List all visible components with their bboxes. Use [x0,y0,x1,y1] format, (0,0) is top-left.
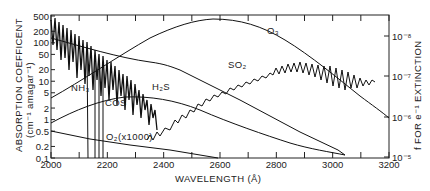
y-tick-label: 0.1 [36,153,49,164]
x-tick-label: 2600 [209,159,230,170]
h2s-label: H₂S [152,81,170,92]
y-tick-label: 5 [44,87,49,98]
absorption-chart: 2000220024002600280030003200 50020010050… [0,0,430,191]
o3-label: O₃ [267,25,279,36]
x-tick-label: 2200 [97,159,118,170]
y-tick-label: 1 [44,114,49,125]
y2-tick-label: 10⁻⁵ [392,152,412,163]
y-tick-label: 2 [44,103,49,114]
nh3-label: NH₃ [71,82,90,93]
y-tick-label: 10 [38,76,49,87]
y-tick-label: 50 [38,49,49,60]
y-axis-label: ABSORPTION COEFFICENT [13,18,24,152]
y2-axis-ticks: 10⁻⁸10⁻⁷10⁻⁶10⁻⁵ [384,31,412,163]
x-tick-label: 2400 [153,159,174,170]
nh3-curve [51,18,157,130]
y-tick-label: 0.2 [36,141,49,152]
y2-axis-label: f FOR e⁻¹ EXTINCTION [412,40,423,150]
x-tick-label: 2800 [266,159,287,170]
x-axis-ticks: 2000220024002600280030003200 [40,15,399,170]
y-tick-label: 500 [33,11,49,22]
y-tick-label: 0.5 [36,126,49,137]
o3-curve [51,19,389,118]
x-axis-label: WAVELENGTH (Å) [175,173,261,184]
y-tick-label: 100 [33,37,49,48]
y2-tick-label: 10⁻⁶ [392,112,412,123]
so2-label: SO₂ [228,59,247,70]
so2-curve [147,62,375,140]
x-tick-label: 3000 [322,159,343,170]
y2-tick-label: 10⁻⁸ [392,31,412,42]
o2-label: O₂(x1000) [106,131,153,142]
cos-label: COS [105,97,127,108]
y-axis-units: (cm⁻¹ amagar⁻¹) [24,62,35,138]
y-tick-label: 20 [38,64,49,75]
y2-tick-label: 10⁻⁷ [392,71,412,82]
y-tick-label: 200 [33,26,49,37]
